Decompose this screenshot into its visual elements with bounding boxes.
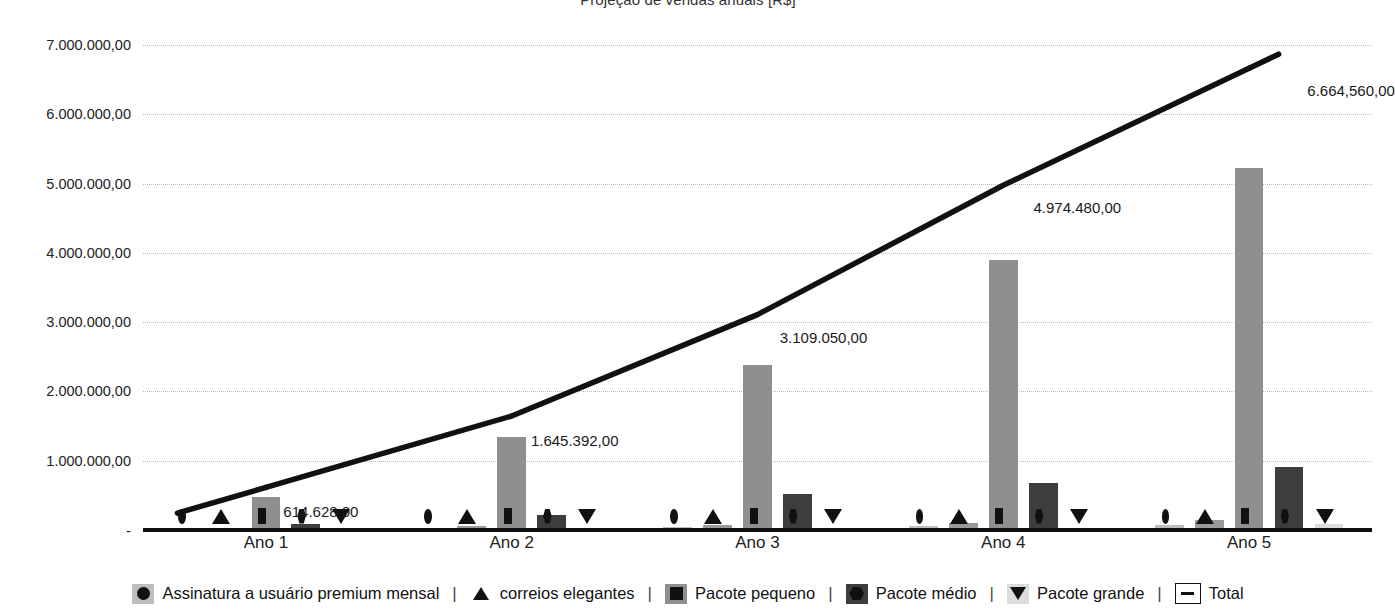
legend-swatch [132, 584, 154, 604]
legend-swatch [846, 584, 868, 604]
triangle-down-icon [1010, 587, 1026, 600]
chart-title: Projeção de vendas anuais [R$] [0, 0, 1376, 8]
dash-icon [1181, 592, 1194, 595]
circle-icon [916, 509, 924, 524]
bar [1275, 467, 1304, 530]
legend-item[interactable]: Total [1164, 583, 1255, 604]
legend-label: Assinatura a usuário premium mensal [162, 584, 439, 603]
square-icon [1241, 508, 1249, 524]
x-tick-label: Ano 1 [176, 533, 356, 553]
circle-icon [137, 587, 150, 600]
y-tick-label: 3.000.000,00 [1, 314, 131, 330]
chart-legend: Assinatura a usuário premium mensal|corr… [0, 583, 1376, 604]
triangle-up-icon [473, 587, 489, 600]
total-data-label: 1.645.392,00 [531, 431, 619, 448]
total-data-label: 4.974.480,00 [1034, 199, 1122, 216]
y-tick-label: 4.000.000,00 [1, 245, 131, 261]
square-icon [670, 587, 683, 600]
square-icon [995, 508, 1003, 524]
legend-item[interactable]: Pacote pequeno [654, 584, 826, 604]
legend-item[interactable]: correios elegantes [459, 584, 646, 604]
y-tick-label: - [1, 522, 131, 539]
triangle-up-icon [458, 509, 476, 524]
total-data-label: 614.628,00 [283, 503, 358, 520]
y-tick-label: 2.000.000,00 [1, 383, 131, 399]
circle-icon [1162, 509, 1170, 524]
square-icon [258, 508, 266, 524]
triangle-down-icon [1070, 509, 1088, 524]
x-tick-label: Ano 5 [1159, 533, 1339, 553]
bar [989, 260, 1018, 530]
legend-label: Total [1209, 584, 1244, 603]
triangle-up-icon [704, 509, 722, 524]
y-tick-label: 7.000.000,00 [1, 37, 131, 53]
bar [1235, 168, 1264, 530]
bar [783, 494, 812, 530]
total-data-label: 6.664,560,00 [1307, 82, 1395, 99]
square-icon [750, 508, 758, 524]
bar [743, 365, 772, 530]
y-tick-label: 1.000.000,00 [1, 453, 131, 469]
legend-label: correios elegantes [500, 584, 635, 603]
legend-item[interactable]: Pacote grande [996, 584, 1155, 604]
legend-swatch [1007, 584, 1029, 604]
triangle-up-icon [212, 509, 230, 524]
x-tick-label: Ano 4 [913, 533, 1093, 553]
hexagon-icon [849, 587, 864, 600]
circle-icon [670, 509, 678, 524]
circle-icon [424, 509, 432, 524]
legend-label: Pacote médio [876, 584, 977, 603]
legend-label: Pacote pequeno [695, 584, 815, 603]
legend-swatch [1175, 583, 1201, 604]
legend-separator: | [826, 584, 834, 604]
legend-swatch [470, 584, 492, 604]
y-tick-label: 6.000.000,00 [1, 106, 131, 122]
triangle-up-icon [950, 509, 968, 524]
total-data-label: 3.109.050,00 [780, 328, 868, 345]
bar-series-layer [143, 45, 1372, 530]
y-tick-label: 5.000.000,00 [1, 176, 131, 192]
square-icon [504, 508, 512, 524]
triangle-down-icon [578, 509, 596, 524]
x-tick-label: Ano 2 [422, 533, 602, 553]
legend-separator: | [1155, 584, 1163, 604]
x-axis-line [143, 528, 1372, 532]
triangle-up-icon [1196, 509, 1214, 524]
legend-separator: | [450, 584, 458, 604]
legend-swatch [665, 584, 687, 604]
circle-icon [178, 509, 186, 524]
legend-separator: | [988, 584, 996, 604]
legend-label: Pacote grande [1037, 584, 1144, 603]
legend-separator: | [646, 584, 654, 604]
x-tick-label: Ano 3 [668, 533, 848, 553]
triangle-down-icon [1316, 509, 1334, 524]
legend-item[interactable]: Pacote médio [835, 584, 988, 604]
bar [1029, 483, 1058, 530]
legend-item[interactable]: Assinatura a usuário premium mensal [121, 584, 450, 604]
triangle-down-icon [824, 509, 842, 524]
